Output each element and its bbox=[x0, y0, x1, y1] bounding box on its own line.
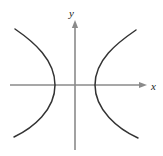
hyperbola-right-branch bbox=[95, 30, 138, 138]
graph-canvas: x y bbox=[0, 0, 163, 156]
y-axis-arrowhead bbox=[72, 20, 78, 28]
x-axis-arrowhead bbox=[139, 82, 147, 88]
y-axis-label: y bbox=[68, 7, 74, 19]
x-axis-label: x bbox=[150, 80, 156, 92]
hyperbola-left-branch bbox=[14, 29, 55, 137]
hyperbola-figure: x y bbox=[0, 0, 163, 156]
